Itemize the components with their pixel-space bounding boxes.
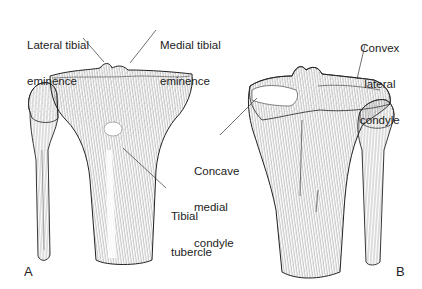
label-line: Lateral tibial: [27, 39, 89, 51]
label-line: Concave: [194, 165, 239, 177]
panel-letter-b: B: [396, 264, 405, 279]
leader-medial-tibial-eminence: [130, 30, 156, 63]
label-convex-lateral-condyle: Convex lateral condyle: [360, 18, 400, 150]
label-line: Convex: [360, 42, 400, 54]
label-line: medial: [194, 201, 239, 213]
label-line: Medial tibial: [160, 39, 221, 51]
label-line: eminence: [27, 75, 89, 87]
label-medial-tibial-eminence: Medial tibial eminence: [160, 15, 221, 111]
label-line: lateral: [360, 78, 400, 90]
label-line: condyle: [360, 114, 400, 126]
tibia-anatomy-figure: Lateral tibial eminence Medial tibial em…: [0, 0, 422, 289]
label-concave-medial-condyle: Concave medial condyle: [194, 141, 239, 273]
label-line: condyle: [194, 237, 239, 249]
label-line: eminence: [160, 75, 221, 87]
label-lateral-tibial-eminence: Lateral tibial eminence: [27, 15, 89, 111]
panel-letter-a: A: [24, 264, 33, 279]
